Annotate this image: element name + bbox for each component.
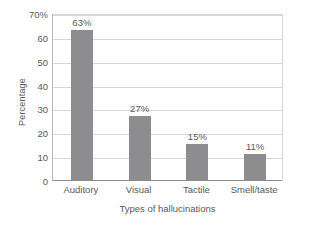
bar-slot: 11%: [226, 15, 284, 181]
bar-smell-taste[interactable]: [244, 154, 266, 180]
bar-value-label: 27%: [130, 103, 149, 114]
y-axis-tick-labels: 010203040506070%: [14, 14, 48, 181]
x-tick-label: Visual: [126, 184, 152, 195]
bar-slot: 63%: [53, 15, 111, 181]
bar-tactile[interactable]: [186, 144, 208, 180]
y-tick-label: 50: [14, 56, 48, 67]
bar-value-label: 15%: [188, 131, 207, 142]
y-tick-label: 30: [14, 104, 48, 115]
x-tick-label: Auditory: [63, 184, 98, 195]
y-tick-label: 10: [14, 152, 48, 163]
bar-auditory[interactable]: [71, 30, 93, 180]
x-axis-tick-labels: AuditoryVisualTactileSmell/taste: [52, 184, 283, 200]
y-tick-label: 40: [14, 80, 48, 91]
x-axis-line: [53, 180, 282, 181]
bar-value-label: 63%: [72, 17, 91, 28]
bar-chart: Percentage 010203040506070% 63%27%15%11%…: [0, 0, 313, 228]
y-tick-label: 0: [14, 176, 48, 187]
y-tick-label: 70%: [14, 9, 48, 20]
plot-area: 63%27%15%11%: [52, 14, 283, 181]
bar-visual[interactable]: [129, 116, 151, 180]
bar-series: 63%27%15%11%: [53, 15, 282, 181]
x-tick-label: Tactile: [183, 184, 210, 195]
y-tick-label: 20: [14, 128, 48, 139]
bar-slot: 15%: [169, 15, 227, 181]
bar-value-label: 11%: [246, 141, 264, 152]
x-axis-title: Types of hallucinations: [52, 203, 283, 214]
x-tick-label: Smell/taste: [231, 184, 278, 195]
bar-slot: 27%: [111, 15, 169, 181]
y-tick-label: 60: [14, 32, 48, 43]
